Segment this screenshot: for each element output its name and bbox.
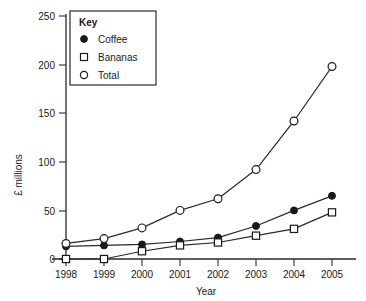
legend-marker-open-circle-icon (80, 71, 87, 78)
data-point (138, 248, 145, 255)
y-tick-label: 0 (49, 254, 55, 265)
data-point (139, 241, 146, 248)
data-point (328, 63, 336, 71)
data-point (291, 207, 298, 214)
y-tick-label: 200 (38, 60, 55, 71)
x-tick-label: 1998 (55, 269, 78, 280)
y-axis-title: £ millions (13, 154, 24, 196)
data-point (62, 255, 69, 262)
y-tick-label: 50 (44, 206, 56, 217)
y-tick-label: 250 (38, 11, 55, 22)
y-tick-label: 150 (38, 108, 55, 119)
legend-label-total: Total (98, 70, 119, 81)
x-tick-label: 2004 (283, 269, 306, 280)
x-tick-label: 1999 (93, 269, 116, 280)
x-tick-label: 2000 (131, 269, 154, 280)
x-axis-tick-labels: 1998 1999 2000 2001 2002 2003 2004 2005 (55, 269, 344, 280)
data-series-layer (62, 63, 336, 263)
legend-title: Key (79, 17, 98, 28)
data-point (252, 232, 259, 239)
data-point (138, 224, 146, 232)
series-total (62, 63, 336, 248)
y-axis-tick-labels: 250 200 150 100 50 0 (38, 11, 55, 265)
x-tick-label: 2005 (321, 269, 344, 280)
data-point (100, 255, 107, 262)
data-point (214, 195, 222, 203)
x-tick-label: 2001 (169, 269, 192, 280)
data-point (62, 240, 70, 248)
data-point (253, 222, 260, 229)
data-point (328, 209, 335, 216)
data-point (290, 225, 297, 232)
x-tick-label: 2003 (245, 269, 268, 280)
y-tick-label: 100 (38, 157, 55, 168)
data-point (329, 192, 336, 199)
data-point (176, 242, 183, 249)
data-point (252, 166, 260, 174)
legend-marker-open-square-icon (81, 54, 88, 61)
data-point (100, 235, 108, 243)
chart-legend: Key Coffee Bananas Total (70, 11, 156, 85)
legend-label-bananas: Bananas (98, 52, 137, 63)
data-point (176, 207, 184, 215)
legend-label-coffee: Coffee (98, 34, 128, 45)
y-axis-ticks (59, 16, 66, 259)
data-point (214, 239, 221, 246)
legend-marker-filled-circle-icon (81, 36, 88, 43)
line-chart: 250 200 150 100 50 0 £ millions 1998 199… (0, 0, 366, 301)
x-tick-label: 2002 (207, 269, 230, 280)
x-axis-title: Year (196, 286, 217, 297)
chart-canvas: 250 200 150 100 50 0 £ millions 1998 199… (0, 0, 366, 301)
series-line-total (66, 67, 332, 244)
data-point (290, 117, 298, 125)
